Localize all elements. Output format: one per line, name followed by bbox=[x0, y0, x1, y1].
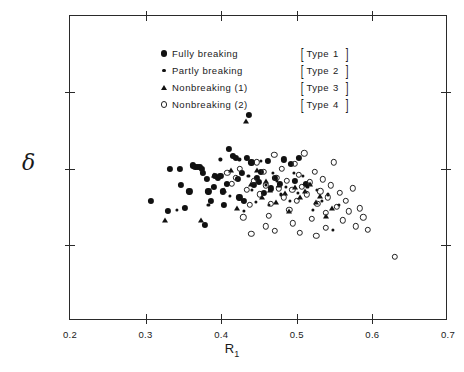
data-point-type-1 bbox=[177, 165, 183, 171]
data-point-type-4 bbox=[319, 176, 325, 182]
data-point-type-4 bbox=[281, 194, 287, 200]
data-point-type-3 bbox=[211, 172, 217, 177]
data-point-type-1 bbox=[281, 156, 287, 162]
data-point-type-3 bbox=[243, 119, 249, 124]
chart-legend: Fully breaking[Type1]Partly breaking[Typ… bbox=[156, 45, 416, 113]
data-point-type-2 bbox=[285, 185, 288, 188]
data-point-type-3 bbox=[254, 168, 260, 173]
data-point-type-3 bbox=[317, 193, 323, 198]
x-axis-tick-top bbox=[372, 11, 373, 21]
legend-row-type-3: Nonbreaking (1)[Type3] bbox=[156, 79, 416, 96]
type-word: Type bbox=[306, 82, 329, 93]
data-point-type-4 bbox=[312, 168, 318, 174]
data-point-type-4 bbox=[337, 190, 343, 196]
x-axis-tick-top bbox=[221, 11, 222, 21]
data-point-type-4 bbox=[224, 170, 230, 176]
data-point-type-2 bbox=[229, 194, 232, 197]
data-point-type-1 bbox=[211, 184, 217, 190]
scatter-plot-figure: δ R1 Fully breaking[Type1]Partly breakin… bbox=[0, 0, 464, 372]
legend-label: Fully breaking bbox=[172, 48, 300, 59]
data-point-type-2 bbox=[207, 204, 210, 207]
x-axis-tick-label: 0.6 bbox=[365, 329, 379, 340]
data-point-type-4 bbox=[240, 214, 246, 220]
legend-label: Partly breaking bbox=[172, 65, 300, 76]
x-axis-tick-top bbox=[146, 11, 147, 21]
legend-type-label: [Type1] bbox=[300, 47, 349, 61]
data-point-type-3 bbox=[267, 187, 273, 192]
y-axis-tick-right bbox=[441, 169, 451, 170]
bracket-open: [ bbox=[301, 98, 304, 112]
data-point-type-4 bbox=[260, 168, 266, 174]
data-point-type-4 bbox=[353, 223, 359, 229]
legend-marker-filled-circle-icon bbox=[156, 46, 172, 62]
legend-type-label: [Type4] bbox=[300, 98, 349, 112]
data-point-type-2 bbox=[238, 158, 241, 161]
legend-label: Nonbreaking (2) bbox=[172, 99, 300, 110]
data-point-type-3 bbox=[162, 218, 168, 223]
bracket-close: ] bbox=[345, 47, 348, 61]
data-point-type-1 bbox=[167, 165, 173, 171]
legend-glyph bbox=[162, 69, 165, 72]
x-axis-tick-label: 0.7 bbox=[441, 329, 455, 340]
legend-glyph bbox=[161, 50, 167, 56]
data-point-type-4 bbox=[301, 150, 307, 156]
x-axis-tick-label: 0.5 bbox=[290, 329, 304, 340]
type-word: Type bbox=[306, 48, 329, 59]
data-point-type-1 bbox=[182, 205, 188, 211]
x-axis-title: R1 bbox=[0, 341, 464, 359]
data-point-type-4 bbox=[294, 197, 300, 203]
bracket-close: ] bbox=[345, 81, 348, 95]
data-point-type-1 bbox=[256, 179, 262, 185]
legend-glyph bbox=[161, 101, 167, 107]
legend-type-label: [Type2] bbox=[300, 64, 349, 78]
x-axis-tick-label: 0.3 bbox=[139, 329, 153, 340]
x-axis-tick bbox=[297, 314, 298, 324]
bracket-open: [ bbox=[301, 47, 304, 61]
x-axis-tick bbox=[372, 314, 373, 324]
data-point-type-4 bbox=[365, 226, 371, 232]
data-point-type-1 bbox=[165, 208, 171, 214]
data-point-type-4 bbox=[247, 202, 253, 208]
y-axis-title: δ bbox=[22, 150, 35, 175]
legend-row-type-2: Partly breaking[Type2] bbox=[156, 62, 416, 79]
data-point-type-1 bbox=[204, 176, 210, 182]
data-point-type-4 bbox=[284, 177, 290, 183]
legend-marker-triangle-icon bbox=[156, 80, 172, 96]
y-axis-tick bbox=[65, 245, 75, 246]
data-point-type-3 bbox=[198, 218, 204, 223]
data-point-type-1 bbox=[221, 202, 227, 208]
data-point-type-4 bbox=[254, 159, 260, 165]
data-point-type-4 bbox=[313, 232, 319, 238]
bracket-close: ] bbox=[345, 98, 348, 112]
data-point-type-4 bbox=[350, 185, 356, 191]
data-point-type-1 bbox=[186, 188, 192, 194]
data-point-type-2 bbox=[320, 199, 323, 202]
data-point-type-1 bbox=[178, 182, 184, 188]
data-point-type-4 bbox=[325, 194, 331, 200]
data-point-type-4 bbox=[334, 203, 340, 209]
data-point-type-1 bbox=[148, 197, 154, 203]
data-point-type-2 bbox=[311, 208, 314, 211]
data-point-type-4 bbox=[297, 229, 303, 235]
x-axis-tick-label: 0.4 bbox=[214, 329, 228, 340]
type-word: Type bbox=[306, 99, 329, 110]
legend-row-type-1: Fully breaking[Type1] bbox=[156, 45, 416, 62]
data-point-type-4 bbox=[331, 159, 337, 165]
data-point-type-4 bbox=[266, 213, 272, 219]
data-point-type-4 bbox=[360, 214, 366, 220]
type-number: 2 bbox=[333, 65, 339, 76]
data-point-type-4 bbox=[248, 231, 254, 237]
data-point-type-2 bbox=[254, 200, 257, 203]
bracket-close: ] bbox=[345, 64, 348, 78]
data-point-type-4 bbox=[346, 208, 352, 214]
data-point-type-4 bbox=[314, 200, 320, 206]
legend-marker-small-dot-icon bbox=[156, 63, 172, 79]
data-point-type-2 bbox=[175, 208, 178, 211]
data-point-type-4 bbox=[272, 228, 278, 234]
data-point-type-4 bbox=[229, 181, 235, 187]
data-point-type-4 bbox=[263, 223, 269, 229]
data-point-type-2 bbox=[331, 228, 334, 231]
legend-type-label: [Type3] bbox=[300, 81, 349, 95]
bracket-open: [ bbox=[301, 81, 304, 95]
data-point-type-2 bbox=[251, 188, 254, 191]
